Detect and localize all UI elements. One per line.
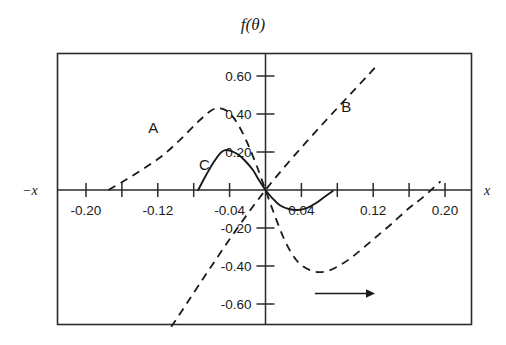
- chart-svg: f(θ) -0.20-0.12-0.040.040.120.20 0.600.4…: [0, 0, 506, 345]
- x-tick-label: -0.20: [71, 203, 102, 218]
- y-tick-label: -0.60: [221, 297, 252, 312]
- x-tick-label: -0.12: [142, 203, 173, 218]
- background: [0, 0, 506, 345]
- curve-label-b: B: [341, 98, 351, 115]
- x-tick-label: 0.20: [432, 203, 458, 218]
- x-tick-label: 0.12: [360, 203, 386, 218]
- y-tick-label: 0.60: [225, 69, 251, 84]
- chart-title: f(θ): [241, 15, 266, 34]
- curve-label-c: C: [199, 156, 210, 173]
- figure-canvas: f(θ) -0.20-0.12-0.040.040.120.20 0.600.4…: [0, 0, 506, 345]
- y-tick-label: 0.40: [225, 107, 251, 122]
- y-tick-label: 0.20: [225, 145, 251, 160]
- x-axis-label-right: x: [483, 183, 491, 198]
- y-tick-label: -0.40: [221, 259, 252, 274]
- x-tick-label: -0.04: [214, 203, 245, 218]
- x-axis-label-left: −x: [22, 183, 38, 198]
- curve-label-a: A: [148, 119, 158, 136]
